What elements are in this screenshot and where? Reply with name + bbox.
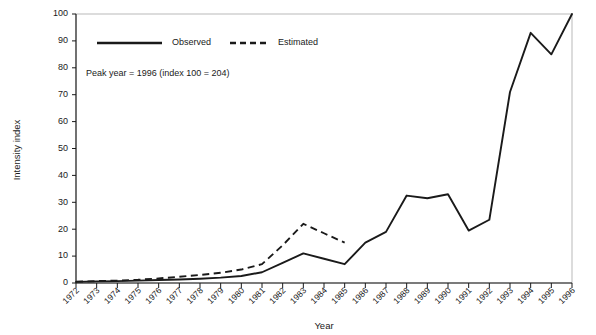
y-axis-tick-label: 100: [53, 8, 68, 18]
y-axis-tick-label: 30: [58, 197, 68, 207]
x-axis-title: Year: [314, 320, 333, 331]
y-axis-tick-label: 60: [58, 116, 68, 126]
y-axis-tick-label: 40: [58, 170, 68, 180]
y-axis-tick-label: 10: [58, 250, 68, 260]
y-axis-tick-label: 50: [58, 143, 68, 153]
legend-label-estimated: Estimated: [278, 37, 318, 47]
y-axis-tick-label: 70: [58, 89, 68, 99]
y-axis-tick-label: 0: [63, 277, 68, 287]
y-axis-tick-label: 90: [58, 35, 68, 45]
intensity-index-line-chart: 0102030405060708090100 19721973197419751…: [0, 0, 596, 335]
chart-figure: 0102030405060708090100 19721973197419751…: [0, 0, 596, 335]
legend-label-observed: Observed: [172, 37, 211, 47]
peak-year-annotation: Peak year = 1996 (index 100 = 204): [86, 68, 230, 78]
y-axis-tick-label: 20: [58, 224, 68, 234]
y-axis-title: Intensity index: [11, 119, 22, 180]
y-axis-tick-label: 80: [58, 62, 68, 72]
chart-background: [0, 0, 596, 335]
